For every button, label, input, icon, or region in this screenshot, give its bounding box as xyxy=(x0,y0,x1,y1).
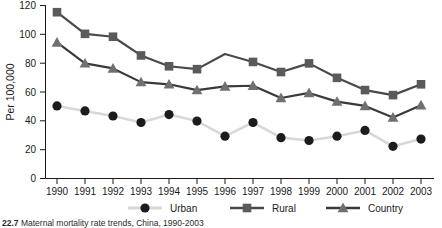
x-axis-tick-labels: 1990199119921993199419951996199719981999… xyxy=(46,186,433,197)
data-point xyxy=(137,51,146,60)
data-point xyxy=(276,133,285,142)
x-tick-label: 1999 xyxy=(298,186,321,197)
legend-swatch-marker xyxy=(140,203,149,212)
y-tick-label: 60 xyxy=(25,87,37,98)
x-tick-label: 1991 xyxy=(74,186,97,197)
y-tick-label: 120 xyxy=(19,0,36,11)
data-point xyxy=(249,58,258,67)
data-point xyxy=(164,110,173,119)
data-point xyxy=(417,80,426,89)
y-axis-ticks xyxy=(40,6,46,179)
data-point xyxy=(192,116,201,125)
x-tick-label: 2000 xyxy=(326,186,349,197)
chart-legend: UrbanRuralCountry xyxy=(128,203,403,214)
data-point xyxy=(360,126,369,135)
y-tick-label: 80 xyxy=(25,58,37,69)
data-point xyxy=(333,74,342,83)
y-tick-label: 100 xyxy=(19,29,36,40)
x-tick-label: 1993 xyxy=(130,186,153,197)
y-tick-label: 0 xyxy=(30,173,36,184)
x-tick-label: 1995 xyxy=(186,186,209,197)
data-point xyxy=(416,134,425,143)
data-point xyxy=(81,30,90,39)
legend-item-urban: Urban xyxy=(128,203,197,214)
x-tick-label: 2001 xyxy=(354,186,377,197)
data-point xyxy=(388,142,397,151)
data-point xyxy=(304,136,313,145)
legend-item-country: Country xyxy=(326,203,403,214)
caption-body: Maternal mortality rate trends, China, 1… xyxy=(21,218,204,228)
x-tick-label: 1997 xyxy=(242,186,265,197)
data-point xyxy=(416,100,427,110)
y-axis-title: Per 100,000 xyxy=(4,63,16,120)
data-point xyxy=(248,118,257,127)
legend-label: Urban xyxy=(170,203,197,214)
y-axis-tick-labels: 0 20 40 60 80 100 120 xyxy=(19,0,36,184)
figure-caption: 22.7 Maternal mortality rate trends, Chi… xyxy=(2,218,442,228)
data-point xyxy=(80,106,89,115)
x-tick-label: 1990 xyxy=(46,186,69,197)
data-point xyxy=(52,101,61,110)
data-point xyxy=(136,118,145,127)
data-point xyxy=(304,88,315,98)
x-tick-label: 1992 xyxy=(102,186,125,197)
data-point xyxy=(108,111,117,120)
line-chart: 0 20 40 60 80 100 120 Per 100,000 199019… xyxy=(0,0,442,228)
data-point xyxy=(389,91,398,100)
legend-label: Rural xyxy=(272,203,296,214)
data-point xyxy=(305,59,314,68)
legend-label: Country xyxy=(368,203,403,214)
series-country xyxy=(52,37,427,122)
series-line xyxy=(57,12,421,95)
figure-container: 0 20 40 60 80 100 120 Per 100,000 199019… xyxy=(0,0,442,228)
data-point xyxy=(109,32,118,41)
data-point xyxy=(332,132,341,141)
x-tick-label: 1994 xyxy=(158,186,181,197)
x-tick-label: 2002 xyxy=(382,186,405,197)
data-point xyxy=(193,65,202,74)
series-layer xyxy=(52,8,427,151)
data-point xyxy=(361,86,370,95)
data-point xyxy=(277,68,286,77)
caption-number: 22.7 xyxy=(2,218,19,228)
data-point xyxy=(220,132,229,141)
data-point xyxy=(53,8,62,17)
y-tick-label: 40 xyxy=(25,115,37,126)
data-point xyxy=(52,37,63,47)
x-tick-label: 1998 xyxy=(270,186,293,197)
x-tick-label: 2003 xyxy=(410,186,433,197)
data-point xyxy=(165,62,174,71)
legend-item-rural: Rural xyxy=(230,203,296,214)
x-axis-ticks xyxy=(57,179,421,185)
x-tick-label: 1996 xyxy=(214,186,237,197)
y-tick-label: 20 xyxy=(25,144,37,155)
legend-swatch-marker xyxy=(243,204,252,213)
